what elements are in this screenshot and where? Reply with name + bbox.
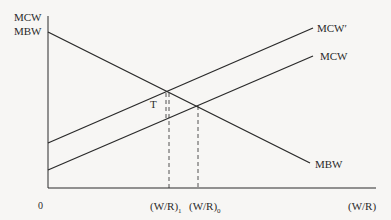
x-tick-wr0-base: (W/R) — [189, 200, 217, 212]
y-axis-label-mbw: MBW — [14, 25, 42, 37]
mcw-prime-curve — [48, 28, 313, 143]
x-tick-wr1: (W/R)1 — [150, 200, 182, 217]
curve-label-mcw-prime: MCW′ — [317, 22, 347, 34]
x-tick-wr0: (W/R)0 — [189, 200, 221, 217]
x-tick-wr1-base: (W/R) — [150, 200, 178, 212]
curve-label-mcw: MCW — [320, 50, 348, 62]
origin-label: 0 — [38, 200, 43, 212]
x-axis-label: (W/R) — [348, 200, 376, 212]
tax-label: T — [150, 98, 157, 110]
mbw-curve — [48, 32, 310, 163]
mcw-curve — [48, 56, 313, 170]
curve-label-mbw: MBW — [315, 158, 343, 170]
x-tick-wr0-sub: 0 — [217, 207, 221, 215]
x-tick-wr1-sub: 1 — [178, 207, 182, 215]
y-axis-label-mcw: MCW — [14, 11, 42, 23]
